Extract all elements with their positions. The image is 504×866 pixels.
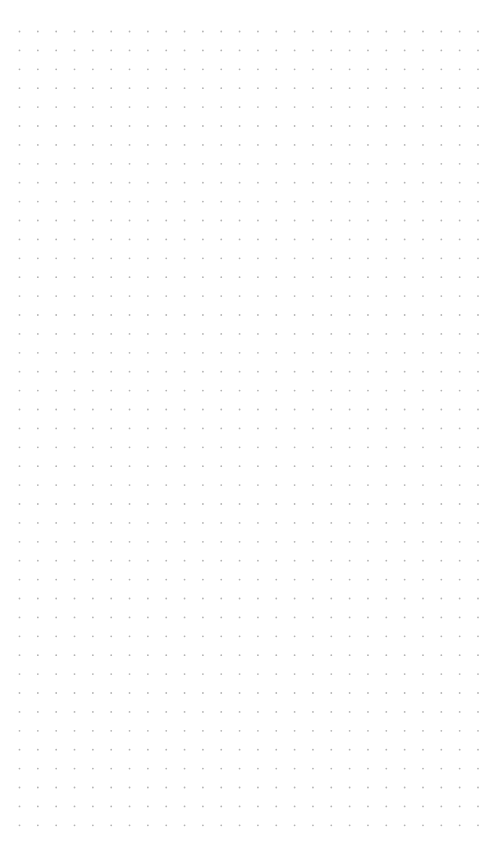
grid-dot bbox=[330, 635, 332, 637]
grid-dot bbox=[294, 276, 296, 278]
grid-dot bbox=[275, 409, 277, 411]
grid-dot bbox=[294, 144, 296, 146]
grid-dot bbox=[367, 787, 369, 789]
grid-dot bbox=[477, 787, 479, 789]
grid-dot bbox=[55, 106, 57, 108]
grid-dot bbox=[330, 257, 332, 259]
grid-dot bbox=[110, 295, 112, 297]
grid-dot bbox=[312, 768, 314, 770]
grid-dot bbox=[330, 465, 332, 467]
grid-dot bbox=[312, 617, 314, 619]
grid-dot bbox=[459, 824, 461, 826]
grid-dot bbox=[275, 106, 277, 108]
grid-dot bbox=[220, 125, 222, 127]
grid-dot bbox=[202, 654, 204, 656]
grid-dot bbox=[129, 617, 131, 619]
grid-dot bbox=[19, 239, 21, 241]
grid-dot bbox=[92, 314, 94, 316]
grid-dot bbox=[92, 484, 94, 486]
grid-dot bbox=[349, 598, 351, 600]
grid-dot bbox=[275, 295, 277, 297]
grid-dot bbox=[294, 257, 296, 259]
grid-dot bbox=[202, 787, 204, 789]
grid-dot bbox=[202, 484, 204, 486]
grid-dot bbox=[404, 635, 406, 637]
grid-dot bbox=[422, 314, 424, 316]
grid-dot bbox=[385, 409, 387, 411]
grid-dot bbox=[55, 824, 57, 826]
grid-dot bbox=[330, 333, 332, 335]
grid-dot bbox=[74, 787, 76, 789]
grid-dot bbox=[404, 295, 406, 297]
grid-dot bbox=[55, 730, 57, 732]
grid-dot bbox=[55, 428, 57, 430]
grid-dot bbox=[477, 806, 479, 808]
grid-dot bbox=[459, 276, 461, 278]
grid-dot bbox=[257, 598, 259, 600]
grid-dot bbox=[257, 333, 259, 335]
grid-dot bbox=[477, 541, 479, 543]
grid-dot bbox=[165, 541, 167, 543]
grid-dot bbox=[37, 824, 39, 826]
grid-dot bbox=[404, 144, 406, 146]
grid-dot bbox=[477, 654, 479, 656]
grid-dot bbox=[477, 371, 479, 373]
grid-dot bbox=[55, 692, 57, 694]
grid-dot bbox=[55, 484, 57, 486]
grid-dot bbox=[367, 31, 369, 33]
grid-dot bbox=[422, 579, 424, 581]
grid-dot bbox=[312, 692, 314, 694]
grid-dot bbox=[477, 484, 479, 486]
grid-dot bbox=[147, 50, 149, 52]
grid-dot bbox=[55, 333, 57, 335]
grid-dot bbox=[110, 371, 112, 373]
grid-dot bbox=[184, 692, 186, 694]
grid-dot bbox=[74, 465, 76, 467]
grid-dot bbox=[147, 220, 149, 222]
grid-dot bbox=[349, 635, 351, 637]
grid-dot bbox=[294, 201, 296, 203]
grid-dot bbox=[385, 201, 387, 203]
grid-dot bbox=[37, 125, 39, 127]
grid-dot bbox=[74, 730, 76, 732]
grid-dot bbox=[294, 598, 296, 600]
grid-dot bbox=[19, 654, 21, 656]
grid-dot bbox=[110, 617, 112, 619]
grid-dot bbox=[422, 617, 424, 619]
grid-dot bbox=[477, 579, 479, 581]
grid-dot bbox=[422, 824, 424, 826]
grid-dot bbox=[440, 654, 442, 656]
grid-dot bbox=[92, 31, 94, 33]
grid-dot bbox=[349, 522, 351, 524]
grid-dot bbox=[74, 673, 76, 675]
grid-dot bbox=[220, 31, 222, 33]
grid-dot bbox=[477, 768, 479, 770]
grid-dot bbox=[110, 503, 112, 505]
grid-dot bbox=[477, 68, 479, 70]
grid-dot bbox=[275, 730, 277, 732]
grid-dot bbox=[37, 484, 39, 486]
grid-dot bbox=[404, 824, 406, 826]
grid-dot bbox=[147, 390, 149, 392]
grid-dot bbox=[257, 409, 259, 411]
grid-dot bbox=[19, 730, 21, 732]
grid-dot bbox=[74, 390, 76, 392]
grid-dot bbox=[257, 692, 259, 694]
grid-dot bbox=[330, 598, 332, 600]
grid-dot bbox=[367, 541, 369, 543]
grid-dot bbox=[312, 522, 314, 524]
grid-dot bbox=[202, 428, 204, 430]
grid-dot bbox=[404, 333, 406, 335]
grid-dot bbox=[165, 768, 167, 770]
grid-dot bbox=[385, 446, 387, 448]
grid-dot bbox=[92, 390, 94, 392]
grid-dot bbox=[330, 673, 332, 675]
grid-dot bbox=[312, 579, 314, 581]
drawing-canvas[interactable] bbox=[0, 0, 504, 866]
grid-dot bbox=[165, 31, 167, 33]
grid-dot bbox=[239, 220, 241, 222]
grid-dot bbox=[294, 635, 296, 637]
grid-dot bbox=[74, 125, 76, 127]
grid-dot bbox=[239, 446, 241, 448]
grid-dot bbox=[349, 806, 351, 808]
